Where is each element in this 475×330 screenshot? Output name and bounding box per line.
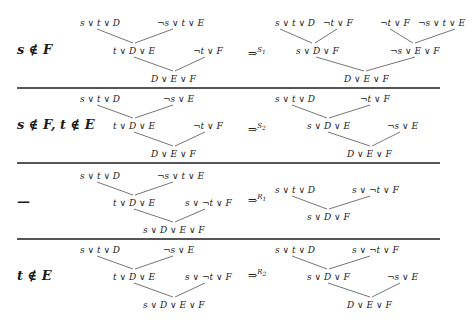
clause-node: ¬s ∨ E: [387, 272, 418, 282]
row-separator: [17, 162, 440, 164]
row-separator: [17, 87, 440, 89]
clause-node: s ∨ t ∨ D: [80, 94, 120, 104]
clause-node: s ∨ ¬t ∨ F: [352, 245, 399, 255]
clause-node: ¬s ∨ t ∨ E: [418, 18, 465, 28]
transform-arrow: ⇒R1: [248, 191, 266, 207]
row-condition: s ∉ F: [17, 43, 52, 57]
clause-node: D ∨ E ∨ F: [344, 74, 389, 84]
clause-node: ¬s ∨ t ∨ E: [157, 171, 204, 181]
clause-node: ¬t ∨ F: [380, 18, 410, 28]
clause-node: ¬t ∨ F: [193, 121, 223, 131]
row-condition: t ∉ E: [17, 269, 52, 283]
clause-node: D ∨ E ∨ F: [151, 149, 196, 159]
clause-node: s ∨ D ∨ F: [307, 272, 350, 282]
clause-node: s ∨ D ∨ E ∨ F: [143, 225, 205, 235]
row-condition: —: [17, 195, 30, 209]
clause-node: s ∨ D ∨ E: [307, 121, 350, 131]
clause-node: t ∨ D ∨ E: [113, 198, 155, 208]
clause-node: s ∨ t ∨ D: [80, 171, 120, 181]
transform-arrow: ⇒R2: [248, 266, 266, 282]
clause-node: D ∨ E ∨ F: [151, 74, 196, 84]
transform-arrow: ⇒S1: [248, 44, 266, 60]
clause-node: ¬s ∨ E: [163, 245, 194, 255]
clause-node: D ∨ E ∨ F: [347, 300, 392, 310]
clause-node: s ∨ t ∨ D: [80, 18, 120, 28]
clause-node: s ∨ D ∨ E ∨ F: [143, 300, 205, 310]
clause-node: s ∨ D ∨ F: [296, 46, 339, 56]
clause-node: ¬t ∨ F: [360, 94, 390, 104]
clause-node: t ∨ D ∨ E: [113, 46, 155, 56]
clause-node: ¬s ∨ t ∨ E: [157, 18, 204, 28]
clause-node: ¬s ∨ E ∨ F: [390, 46, 440, 56]
clause-node: s ∨ ¬t ∨ F: [352, 185, 399, 195]
clause-node: t ∨ D ∨ E: [113, 121, 155, 131]
clause-node: t ∨ D ∨ E: [113, 272, 155, 282]
transform-arrow: ⇒S2: [248, 120, 266, 136]
clause-node: s ∨ ¬t ∨ F: [185, 198, 232, 208]
clause-node: ¬t ∨ F: [323, 18, 353, 28]
clause-node: s ∨ t ∨ D: [275, 185, 315, 195]
clause-node: D ∨ E ∨ F: [347, 149, 392, 159]
clause-node: s ∨ t ∨ D: [275, 18, 315, 28]
clause-node: s ∨ t ∨ D: [275, 245, 315, 255]
clause-node: ¬t ∨ F: [193, 46, 223, 56]
row-condition: s ∉ F, t ∉ E: [17, 118, 95, 132]
clause-node: s ∨ t ∨ D: [275, 94, 315, 104]
clause-node: s ∨ D ∨ F: [307, 212, 350, 222]
clause-node: s ∨ ¬t ∨ F: [185, 272, 232, 282]
clause-node: ¬s ∨ E: [163, 94, 194, 104]
clause-node: ¬s ∨ E: [387, 121, 418, 131]
clause-node: s ∨ t ∨ D: [80, 245, 120, 255]
row-separator: [17, 238, 440, 240]
